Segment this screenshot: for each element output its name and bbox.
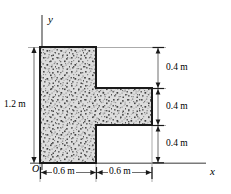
dim-arrow-b2-right xyxy=(146,170,152,175)
origin-label: O xyxy=(32,164,39,174)
dim-arrow-r1-bottom xyxy=(156,82,161,88)
figure-canvas: y x O 1.2 m 0.4 m 0.4 m 0.4 m 0.6 m 0.6 … xyxy=(0,0,231,194)
dim-label-bottom-left: 0.6 m xyxy=(52,167,76,177)
dim-label-left-vertical: 1.2 m xyxy=(4,100,26,110)
dim-label-bottom-right: 0.6 m xyxy=(108,167,132,177)
dim-arrow-b1-left xyxy=(41,170,47,175)
dim-arrow-b1-right xyxy=(90,170,96,175)
dim-arrow-b2-left xyxy=(97,170,103,175)
dim-arrow-r3-top xyxy=(156,126,161,132)
x-axis-label: x xyxy=(210,166,215,177)
dim-arrow-r1-top xyxy=(156,48,161,54)
dim-label-right-middle: 0.4 m xyxy=(166,102,188,112)
dim-arrow-r2-top xyxy=(156,89,161,95)
dim-arrow-r2-bottom xyxy=(156,119,161,125)
dim-arrow-r3-bottom xyxy=(156,157,161,163)
y-axis-label: y xyxy=(48,14,53,25)
dim-label-right-top: 0.4 m xyxy=(166,63,188,73)
dim-label-right-bottom: 0.4 m xyxy=(166,139,188,149)
